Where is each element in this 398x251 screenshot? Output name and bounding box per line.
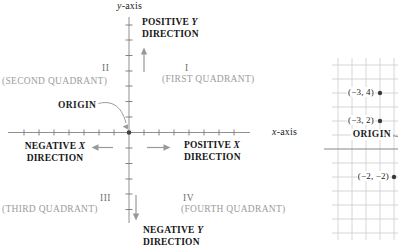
- positive-y-direction-label: POSITIVE Y DIRECTION: [142, 17, 199, 40]
- origin-label: ORIGIN: [58, 100, 96, 110]
- negative-x-arrow-icon: [92, 144, 114, 150]
- negative-y-arrow-icon: [133, 195, 139, 221]
- point-label-neg3-2: (−3, 2): [347, 115, 375, 125]
- point-neg2-neg2: [392, 175, 396, 179]
- positive-y-arrow-icon: [141, 48, 147, 73]
- coordinate-plane-figure: y-axis x-axis POSITIVE Y DIRECTION NEGAT…: [0, 0, 398, 251]
- grid-origin-label: ORIGIN: [351, 129, 393, 140]
- x-axis-label: x-axis: [272, 127, 297, 137]
- quadrant-1-numeral: I: [185, 63, 189, 73]
- negative-x-direction-label: NEGATIVE X DIRECTION: [19, 141, 91, 164]
- origin-leader-arrow-icon: [99, 103, 129, 130]
- quadrant-1-label: (FIRST QUADRANT): [162, 74, 255, 84]
- point-label-neg3-4: (−3, 4): [347, 87, 375, 97]
- quadrant-4-label: (FOURTH QUADRANT): [181, 204, 286, 214]
- positive-x-arrow-icon: [147, 144, 171, 150]
- point-neg3-4: [378, 91, 382, 95]
- point-label-neg2-neg2: (−2, −2): [357, 171, 390, 181]
- quadrant-2-numeral: II: [102, 63, 109, 73]
- y-axis-label: y-axis: [117, 1, 142, 11]
- quadrant-3-numeral: III: [100, 193, 111, 203]
- origin-dot: [127, 130, 132, 135]
- quadrant-3-label: (THIRD QUADRANT): [2, 204, 98, 214]
- point-neg3-2: [378, 119, 382, 123]
- quadrant-2-label: (SECOND QUADRANT): [2, 76, 107, 86]
- quadrant-4-numeral: IV: [183, 193, 194, 203]
- negative-y-direction-label: NEGATIVE Y DIRECTION: [143, 225, 203, 248]
- positive-x-direction-label: POSITIVE X DIRECTION: [184, 140, 241, 163]
